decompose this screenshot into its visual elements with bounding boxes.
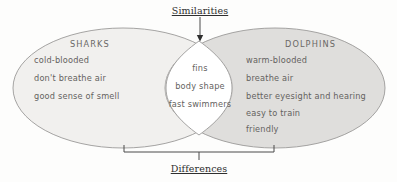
differences-label: Differences <box>168 163 230 174</box>
intersection-item: fins <box>155 63 245 73</box>
similarities-label: Similarities <box>170 5 230 16</box>
right-set-title: DOLPHINS <box>285 39 336 49</box>
right-set-item: warm-blooded <box>246 55 307 65</box>
left-set-item: don't breathe air <box>34 73 106 83</box>
left-set-item: good sense of smell <box>34 91 120 101</box>
right-set-item: breathe air <box>246 73 293 83</box>
left-set-item: cold-blooded <box>34 55 89 65</box>
right-set-item: easy to train <box>246 108 300 118</box>
intersection-item: fast swimmers <box>155 99 245 109</box>
left-set-title: SHARKS <box>70 39 110 49</box>
intersection-item: body shape <box>155 81 245 91</box>
venn-diagram-canvas: Similarities Differences SHARKS cold-blo… <box>0 0 397 182</box>
right-set-item: better eyesight and hearing <box>246 91 366 101</box>
similarities-arrowhead-icon <box>197 35 203 42</box>
right-set-item: friendly <box>246 124 279 134</box>
